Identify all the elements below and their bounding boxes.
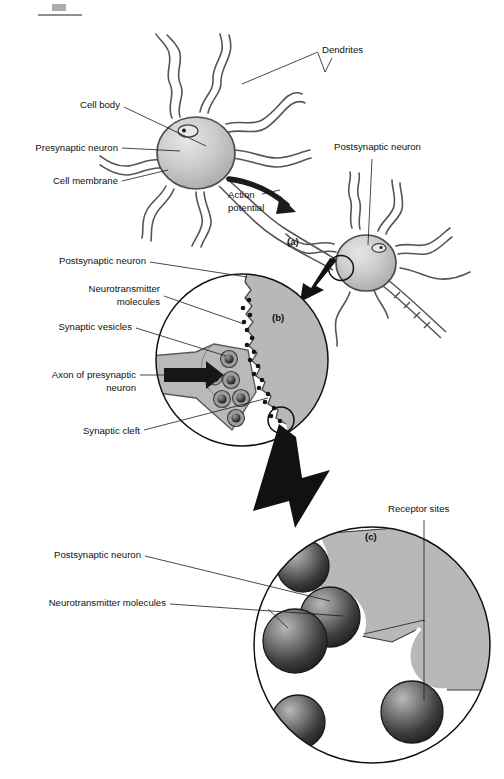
label-neurotransmitter-b-2: molecules [117, 296, 160, 307]
label-axon-b-1: Axon of presynaptic [52, 369, 136, 380]
label-neurotransmitter-b-1: Neurotransmitter [89, 283, 161, 294]
panel-b: Postsynaptic neuron Neurotransmitter mol… [52, 255, 339, 528]
label-postsynaptic-neuron-c: Postsynaptic neuron [54, 549, 141, 560]
label-synaptic-vesicles: Synaptic vesicles [58, 321, 132, 332]
label-synaptic-cleft: Synaptic cleft [83, 425, 140, 436]
label-action-potential-1: Action [228, 189, 255, 200]
figure-page: Dendrites Cell body Presynaptic neuron C… [0, 0, 504, 779]
panel-label-a: (a) [287, 236, 299, 247]
molecule-bottom-left [271, 695, 325, 749]
label-presynaptic-neuron: Presynaptic neuron [35, 142, 118, 153]
presynaptic-cell-body [157, 117, 235, 189]
leader-synaptic-vesicles [136, 328, 226, 356]
label-cell-body: Cell body [80, 99, 120, 110]
panel-c: Receptor sites Postsynaptic neuron Neuro… [49, 503, 500, 770]
label-neurotransmitter-c: Neurotransmitter molecules [49, 597, 167, 608]
molecule-free-left [263, 609, 327, 673]
zoom-arrow-a-to-b [300, 258, 337, 302]
leader-dendrites [242, 52, 332, 84]
molecule-bound-bottom-right [381, 681, 443, 743]
label-postsynaptic-neuron-b: Postsynaptic neuron [59, 255, 146, 266]
leader-postsynaptic-neuron-a [368, 159, 372, 245]
scan-artifact [38, 4, 82, 16]
label-cell-membrane: Cell membrane [53, 175, 118, 186]
label-receptor-sites: Receptor sites [388, 503, 450, 514]
label-action-potential-2: potential [228, 202, 264, 213]
panel-label-c: (c) [365, 531, 377, 542]
label-postsynaptic-neuron-a: Postsynaptic neuron [334, 141, 421, 152]
leader-neurotransmitter-b [164, 296, 244, 324]
synaptic-transmission-diagram: Dendrites Cell body Presynaptic neuron C… [0, 0, 504, 779]
leader-postsynaptic-neuron-b [150, 262, 247, 277]
panel-label-b: (b) [272, 312, 284, 323]
label-dendrites: Dendrites [322, 44, 363, 55]
label-axon-b-2: neuron [106, 382, 136, 393]
